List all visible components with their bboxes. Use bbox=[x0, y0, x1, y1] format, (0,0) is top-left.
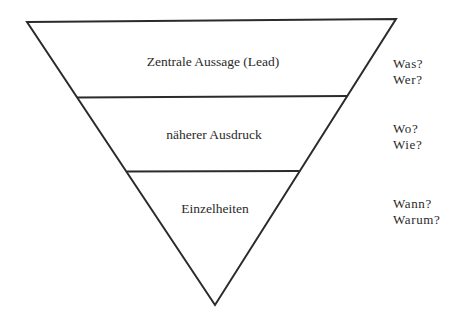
layer-3-question-1: Wann? bbox=[393, 196, 432, 211]
layer-2-question-2: Wie? bbox=[393, 137, 422, 152]
layer-1-question-1: Was? bbox=[393, 56, 423, 71]
layer-1-label: Zentrale Aussage (Lead) bbox=[147, 54, 280, 69]
inverted-pyramid-diagram: Zentrale Aussage (Lead) näherer Ausdruck… bbox=[0, 0, 462, 331]
layer-2-label: näherer Ausdruck bbox=[166, 127, 262, 142]
divider-layer-2-3 bbox=[127, 171, 299, 172]
layer-3-question-2: Warum? bbox=[393, 212, 440, 227]
divider-layer-1-2 bbox=[77, 96, 348, 98]
layer-3-label: Einzelheiten bbox=[181, 201, 249, 216]
layer-1-question-2: Wer? bbox=[393, 72, 423, 87]
layer-2-question-1: Wo? bbox=[393, 121, 418, 136]
